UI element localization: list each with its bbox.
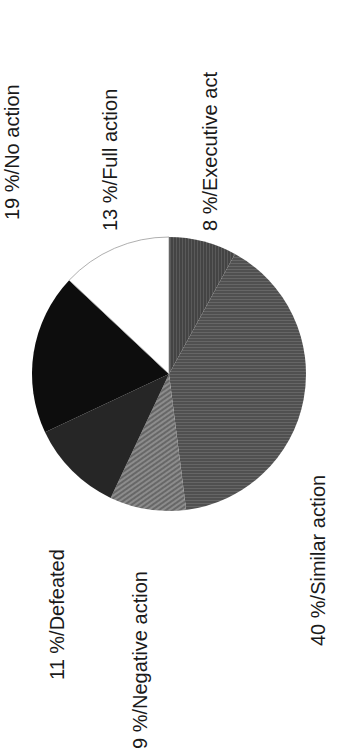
pie-chart: 19 %/No action 13 %/Full action 8 %/Exec… [0,0,339,750]
pie-slices [32,237,306,511]
label-similar-action: 40 %/Similar action [307,475,329,646]
label-no-action: 19 %/No action [1,84,23,220]
label-full-action: 13 %/Full action [99,89,121,231]
label-defeated: 11 %/Defeated [46,549,68,680]
label-negative-action: 9 %/Negative action [129,571,151,749]
label-executive-act: 8 %/Executive act [199,72,221,231]
